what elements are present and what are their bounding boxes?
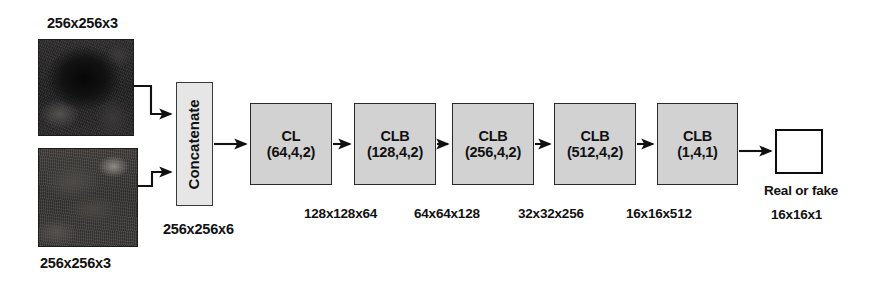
block-clb-1: CLB (1,4,1) xyxy=(657,103,738,185)
input-image-top xyxy=(38,39,134,136)
block-cl-64-type: CL xyxy=(267,128,315,144)
concatenate-output-shape: 256x256x6 xyxy=(163,222,234,237)
block-clb-512-params: (512,4,2) xyxy=(567,144,623,160)
input-image-bottom-pixels xyxy=(39,149,137,246)
block-clb-128: CLB (128,4,2) xyxy=(354,103,436,185)
output-box xyxy=(775,129,823,174)
output-label: Real or fake xyxy=(764,184,838,198)
block-clb-256-type: CLB xyxy=(465,128,521,144)
input-image-top-pixels xyxy=(39,40,133,135)
concatenate-label: Concatenate xyxy=(186,99,203,189)
block-cl-64: CL (64,4,2) xyxy=(250,103,332,185)
block-cl-64-params: (64,4,2) xyxy=(267,144,315,160)
arrow-input-bottom-to-concat xyxy=(138,172,171,186)
block-clb-1-type: CLB xyxy=(677,128,718,144)
arrow-input-top-to-concat xyxy=(134,86,171,114)
input-bottom-caption: 256x256x3 xyxy=(40,256,111,271)
shape-label-block-3: 32x32x256 xyxy=(518,207,584,221)
discriminator-architecture-diagram: 256x256x3 256x256x3 Concatenate 256x256x… xyxy=(0,0,883,290)
output-shape-label: 16x16x1 xyxy=(771,208,822,222)
block-clb-512: CLB (512,4,2) xyxy=(554,103,636,185)
input-top-caption: 256x256x3 xyxy=(47,16,118,31)
block-clb-256-params: (256,4,2) xyxy=(465,144,521,160)
shape-label-block-4: 16x16x512 xyxy=(626,207,692,221)
block-clb-256: CLB (256,4,2) xyxy=(452,103,534,185)
block-clb-128-type: CLB xyxy=(367,128,423,144)
block-clb-512-type: CLB xyxy=(567,128,623,144)
shape-label-block-1: 128x128x64 xyxy=(304,207,377,221)
concatenate-block: Concatenate xyxy=(176,82,213,206)
shape-label-block-2: 64x64x128 xyxy=(414,207,480,221)
input-image-bottom xyxy=(38,148,138,247)
block-clb-128-params: (128,4,2) xyxy=(367,144,423,160)
block-clb-1-params: (1,4,1) xyxy=(677,144,718,160)
